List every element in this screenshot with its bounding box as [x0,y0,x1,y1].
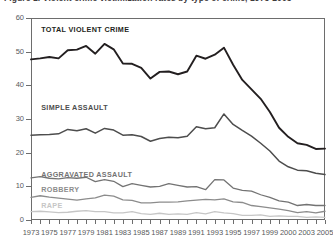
series-line [31,195,325,213]
x-axis-tick-mark [307,220,308,224]
series-label: ROBBERY [41,186,79,194]
x-axis-tick-mark [68,220,69,224]
y-axis-tick-label: 60 [2,14,24,22]
x-axis-tick-label: 1979 [78,228,95,237]
x-axis-tick-mark [114,220,115,224]
x-axis-tick-label: 2005 [317,228,333,237]
chart-title: Figure 1. Violent crime victimization ra… [4,0,330,3]
series-label: AGGRAVATED ASSAULT [41,171,132,179]
x-axis-tick-mark [31,220,32,224]
x-axis-tick-mark [316,220,317,224]
x-axis-tick-label: 1975 [41,228,58,237]
y-axis-tick-mark [26,186,31,187]
x-axis-tick-mark [178,220,179,224]
y-axis-tick-label: 0 [2,216,24,224]
x-axis-tick-mark [252,220,253,224]
x-axis-tick-mark [233,220,234,224]
x-axis-tick-mark [105,220,106,224]
x-axis-tick-mark [279,220,280,224]
y-axis-tick-mark [26,85,31,86]
y-axis-tick-label: 30 [2,115,24,123]
series-label: TOTAL VIOLENT CRIME [41,26,129,34]
x-axis-tick-mark [206,220,207,224]
series-line [31,211,325,218]
x-axis-tick-label: 1991 [188,228,205,237]
series-line [31,44,325,149]
x-axis-tick-label: 2003 [298,228,315,237]
x-axis-tick-mark [40,220,41,224]
x-axis-tick-mark [224,220,225,224]
x-axis-tick-mark [95,220,96,224]
x-axis-tick-label: 1989 [170,228,187,237]
x-axis-tick-mark [150,220,151,224]
x-axis-tick-mark [141,220,142,224]
x-axis-tick-mark [215,220,216,224]
y-axis-tick-label: 40 [2,81,24,89]
x-axis-tick-label: 1981 [96,228,113,237]
y-axis-tick-mark [26,18,31,19]
x-axis-tick-label: 1985 [133,228,150,237]
y-axis-tick-mark [26,153,31,154]
x-axis-tick-label: 1983 [115,228,132,237]
series-label: SIMPLE ASSAULT [41,104,108,112]
y-axis-tick-label: 10 [2,182,24,190]
x-axis-tick-label: 1973 [23,228,40,237]
x-axis-tick-mark [160,220,161,224]
x-axis-tick-mark [132,220,133,224]
x-axis-tick-mark [261,220,262,224]
x-axis-tick-mark [169,220,170,224]
x-axis-tick-label: 1987 [151,228,168,237]
x-axis-tick-mark [297,220,298,224]
x-axis-tick-mark [49,220,50,224]
y-axis-tick-label: 50 [2,48,24,56]
series-line [31,114,325,175]
x-axis-tick-mark [270,220,271,224]
x-axis-tick-label: 1999 [262,228,279,237]
x-axis-tick-label: 2000 [280,228,297,237]
x-axis-tick-label: 1997 [243,228,260,237]
y-axis-tick-mark [26,119,31,120]
x-axis-tick-mark [325,220,326,224]
x-axis-tick-label: 1995 [225,228,242,237]
x-axis-tick-mark [59,220,60,224]
series-label: RAPE [41,202,62,210]
y-axis-tick-mark [26,52,31,53]
x-axis-tick-mark [86,220,87,224]
x-axis-tick-mark [123,220,124,224]
x-axis-tick-label: 1977 [59,228,76,237]
x-axis-tick-mark [77,220,78,224]
x-axis-tick-label: 1993 [206,228,223,237]
y-axis-tick-label: 20 [2,149,24,157]
x-axis-tick-mark [196,220,197,224]
x-axis-tick-mark [242,220,243,224]
x-axis-tick-mark [187,220,188,224]
x-axis-tick-mark [288,220,289,224]
